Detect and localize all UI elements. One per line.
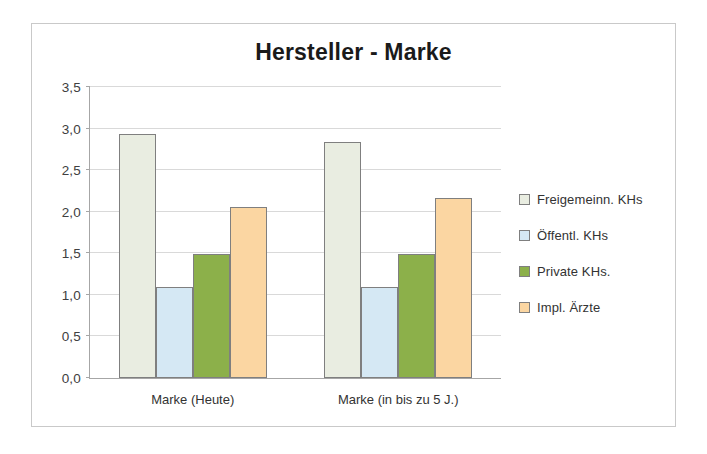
legend-item[interactable]: Impl. Ärzte (519, 300, 669, 315)
bar-ffentl-khs (156, 287, 193, 378)
legend-item[interactable]: Freigemeinn. KHs (519, 192, 669, 207)
y-axis-label: 0,5 (62, 329, 81, 344)
bar-private-khs (193, 254, 230, 378)
chart-legend: Freigemeinn. KHsÖffentl. KHsPrivate KHs.… (519, 192, 669, 336)
legend-label: Öffentl. KHs (537, 228, 608, 243)
y-axis-label: 2,5 (62, 163, 81, 178)
y-axis-label: 1,0 (62, 287, 81, 302)
legend-label: Impl. Ärzte (537, 300, 600, 315)
legend-swatch-icon (519, 266, 530, 277)
bar-private-khs (398, 254, 435, 378)
y-axis-label: 0,0 (62, 371, 81, 386)
legend-label: Private KHs. (537, 264, 610, 279)
legend-label: Freigemeinn. KHs (537, 192, 643, 207)
legend-swatch-icon (519, 302, 530, 313)
bar-group: Marke (Heute) (90, 87, 296, 378)
bar-impl-rzte (230, 207, 267, 378)
y-axis-label: 3,5 (62, 80, 81, 95)
legend-item[interactable]: Öffentl. KHs (519, 228, 669, 243)
bar-impl-rzte (435, 198, 472, 378)
bar-freigemeinn-khs (324, 142, 361, 378)
y-axis-label: 1,5 (62, 246, 81, 261)
y-axis-label: 3,0 (62, 121, 81, 136)
bar-freigemeinn-khs (119, 134, 156, 378)
plot-area: 0,00,51,01,52,02,53,03,5Marke (Heute)Mar… (89, 87, 501, 379)
chart-title: Hersteller - Marke (32, 39, 675, 66)
x-axis-label: Marke (Heute) (90, 392, 296, 407)
bar-ffentl-khs (361, 287, 398, 378)
legend-swatch-icon (519, 194, 530, 205)
legend-swatch-icon (519, 230, 530, 241)
chart-frame: Hersteller - Marke 0,00,51,01,52,02,53,0… (31, 23, 676, 427)
legend-item[interactable]: Private KHs. (519, 264, 669, 279)
x-axis-label: Marke (in bis zu 5 J.) (296, 392, 502, 407)
bar-group: Marke (in bis zu 5 J.) (296, 87, 502, 378)
y-axis-label: 2,0 (62, 204, 81, 219)
